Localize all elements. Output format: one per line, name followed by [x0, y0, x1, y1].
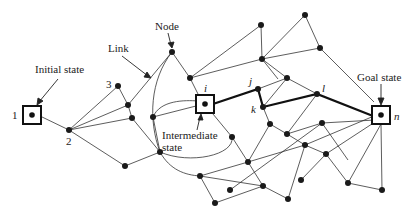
state-space-graph-diagram: Initial state Link Node Intermediate sta… [0, 0, 415, 218]
intermediate-state-label-line2: state [162, 141, 182, 153]
annotation-arrows [37, 33, 384, 130]
initial-state-box [23, 106, 41, 124]
node-label: Node [155, 20, 179, 32]
solution-path [213, 89, 373, 116]
node-n-label: n [394, 110, 400, 122]
graph-svg: Initial state Link Node Intermediate sta… [0, 0, 415, 218]
initial-state-label: Initial state [35, 63, 84, 75]
goal-state-box [372, 106, 390, 124]
goal-state-label: Goal state [357, 71, 401, 83]
node-3-label: 3 [106, 78, 112, 90]
link-label: Link [108, 42, 129, 54]
node-1-label: 1 [12, 109, 18, 121]
node-l-label: l [322, 82, 325, 94]
node-j-label: j [247, 75, 252, 87]
node-i-label: i [204, 82, 207, 94]
intermediate-state-label-line1: Intermediate [162, 129, 218, 141]
node-2-label: 2 [66, 135, 72, 147]
intermediate-state-box [196, 95, 214, 113]
node-k-label: k [251, 103, 257, 115]
